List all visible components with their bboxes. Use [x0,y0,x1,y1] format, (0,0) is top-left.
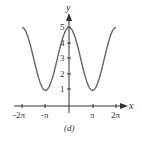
x-tick-label: -π [41,110,49,120]
y-tick-label: 1 [60,84,65,94]
x-tick-label: π [90,110,95,120]
x-tick-label: -2π [13,110,25,120]
figure-caption: (d) [64,123,75,133]
function-graph: x y -2π -π π 2π 1 2 3 4 5 (d) [0,0,142,143]
y-tick-label: 3 [60,53,65,63]
y-axis-arrow-icon [66,13,72,21]
x-tick-label: 2π [111,110,121,120]
y-tick-label: 5 [60,22,65,32]
x-axis-arrow-icon [120,103,128,109]
y-tick-label: 2 [60,69,65,79]
y-axis-label: y [65,2,71,13]
x-axis-label: x [128,100,134,111]
